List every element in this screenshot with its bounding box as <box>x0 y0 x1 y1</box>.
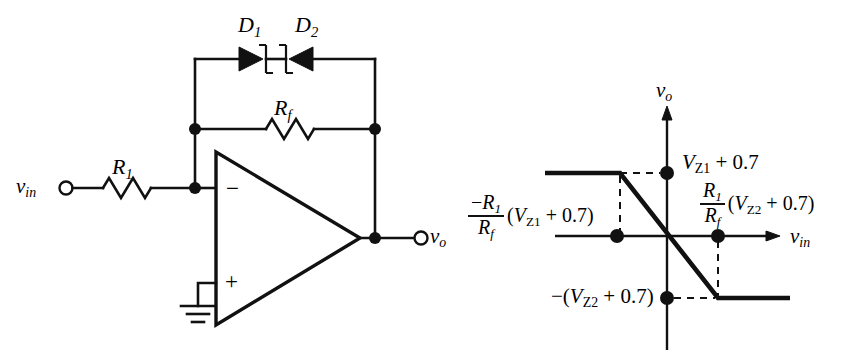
x-axis-label-sub: in <box>799 235 810 250</box>
resistor-rf-label: Rf <box>274 97 292 122</box>
y-axis-arrowhead <box>662 106 672 120</box>
d1-anode-triangle <box>239 47 263 71</box>
d2-anode-triangle <box>289 47 313 71</box>
right-frac-num-r: R <box>703 179 715 201</box>
right-frac-num-sub: 1 <box>715 189 722 204</box>
left-frac-num-sub: 1 <box>495 201 502 216</box>
right-frac-den-sub: f <box>717 215 721 230</box>
left-frac-sign: − <box>471 191 482 213</box>
opamp-inverting-label: − <box>226 177 239 200</box>
resistor-r1-label: R1 <box>112 156 133 181</box>
input-label-sub: in <box>25 185 36 200</box>
output-terminal-label: vo <box>430 226 446 250</box>
right-paren-sub: Z2 <box>747 202 762 217</box>
bottom-label-lead: −( <box>551 284 570 308</box>
point-vz1-plus-07 <box>660 166 674 180</box>
left-paren-tail: + 0.7) <box>541 204 594 226</box>
d2-label-sub: 2 <box>311 24 318 40</box>
r1-label-r: R <box>112 154 125 179</box>
top-label-tail: + 0.7 <box>710 150 759 174</box>
d1-label-sub: 1 <box>254 24 261 40</box>
left-frac-den-sub: f <box>490 227 494 242</box>
left-frac-num-r: R <box>482 191 494 213</box>
right-frac-numerator: R1 <box>700 180 725 203</box>
label-right-x-breakpoint: R1 Rf (VZ2 + 0.7) <box>700 180 814 229</box>
input-terminal-circle[interactable] <box>60 182 73 195</box>
left-frac-numerator: −R1 <box>468 192 504 215</box>
rf-label-sub: f <box>287 107 291 123</box>
top-label-v: V <box>682 150 695 174</box>
y-axis-label-sub: o <box>665 89 672 104</box>
label-left-x-breakpoint: −R1 Rf (VZ1 + 0.7) <box>468 192 594 241</box>
label-bottom-y-intercept: −(VZ2 + 0.7) <box>551 286 654 310</box>
bottom-label-v: V <box>570 284 583 308</box>
input-label-v: v <box>16 174 25 198</box>
output-label-sub: o <box>439 235 446 250</box>
input-terminal-label: vin <box>16 176 36 200</box>
right-frac-den-r: R <box>704 204 716 226</box>
ground-symbol <box>181 306 215 322</box>
point-right-breakpoint <box>711 229 725 243</box>
point-left-breakpoint <box>610 229 624 243</box>
left-frac-den-r: R <box>478 216 490 238</box>
label-top-y-intercept: VZ1 + 0.7 <box>682 152 759 176</box>
y-axis-label-v: v <box>656 78 665 102</box>
right-frac-denominator: Rf <box>700 203 725 228</box>
left-paren-group: (VZ1 + 0.7) <box>507 205 594 228</box>
rf-label-r: R <box>274 95 287 120</box>
left-paren-lead: ( <box>507 204 514 226</box>
right-fraction: R1 Rf <box>700 180 725 229</box>
bottom-label-sub: Z2 <box>583 295 598 310</box>
figure-root: vin vo R1 Rf D1 D2 − + <box>0 0 848 360</box>
right-paren-tail: + 0.7) <box>761 192 814 214</box>
left-paren-sub: Z1 <box>526 214 541 229</box>
output-terminal-circle[interactable] <box>415 232 428 245</box>
x-axis-arrowhead <box>766 231 780 241</box>
left-paren-v: V <box>514 204 526 226</box>
d2-label-d: D <box>295 12 311 37</box>
y-axis-label: vo <box>656 80 672 104</box>
d1-label-d: D <box>238 12 254 37</box>
left-fraction: −R1 Rf <box>468 192 504 241</box>
x-axis-label: vin <box>790 226 810 250</box>
wire-ground-lead <box>198 283 216 306</box>
point-neg-vz2-plus-07 <box>660 291 674 305</box>
r1-label-sub: 1 <box>125 166 132 182</box>
right-paren-v: V <box>734 192 746 214</box>
left-frac-denominator: Rf <box>468 215 504 240</box>
right-paren-group: (VZ2 + 0.7) <box>728 193 815 216</box>
node-rf-right <box>369 123 381 135</box>
output-label-v: v <box>430 224 439 248</box>
opamp-noninverting-label: + <box>225 270 238 293</box>
diode-d1-label: D1 <box>238 14 261 39</box>
top-label-sub: Z1 <box>695 161 710 176</box>
diode-d2-label: D2 <box>295 14 318 39</box>
bottom-label-tail: + 0.7) <box>598 284 654 308</box>
